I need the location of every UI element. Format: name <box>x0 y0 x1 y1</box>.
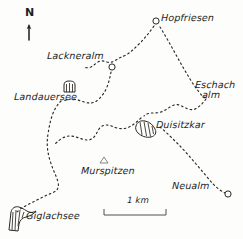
place-label-murspitzen[interactable]: Murspitzen <box>81 166 135 176</box>
place-label-landauersee[interactable]: Landauersee <box>14 92 77 102</box>
marker-hopfriesen[interactable] <box>153 18 159 24</box>
place-label-neualm[interactable]: Neualm <box>172 181 210 191</box>
map-canvas <box>0 0 243 239</box>
marker-duisitzkar[interactable] <box>136 121 156 138</box>
place-label-duisitzkar[interactable]: Duisitzkar <box>156 120 205 130</box>
place-label-hopfriesen[interactable]: Hopfriesen <box>161 13 214 23</box>
place-label-giglachsee[interactable]: Giglachsee <box>26 211 80 221</box>
scale-bar <box>104 209 166 215</box>
north-arrow-icon <box>27 24 32 40</box>
trail-duisitzkar-murspitzen <box>54 118 141 145</box>
trail-hopfriesen-lackneralm <box>84 26 154 68</box>
marker-lackneralm[interactable] <box>109 64 115 70</box>
trail-eschachalm-duisitzkar <box>144 99 206 116</box>
hand-drawn-hiking-map: N Hopfriesen Lackneralm Landauersee Esch… <box>0 0 243 239</box>
place-label-eschachalm-line2[interactable]: alm <box>202 90 221 100</box>
marker-murspitzen[interactable] <box>100 157 108 163</box>
scale-bar-label: 1 km <box>127 196 149 205</box>
trail-landauersee-giglachsee <box>17 101 61 212</box>
place-label-lackneralm[interactable]: Lackneralm <box>47 51 104 61</box>
north-label: N <box>25 7 34 19</box>
marker-neualm[interactable] <box>225 191 231 197</box>
